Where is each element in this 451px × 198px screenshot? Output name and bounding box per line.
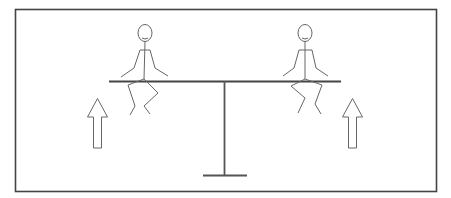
- diagram-frame: [16, 10, 437, 192]
- stick-figure-left: [121, 25, 168, 116]
- up-arrow-icon: [343, 99, 363, 149]
- stick-figure-right: [283, 25, 328, 115]
- seesaw-diagram: [0, 0, 451, 198]
- up-arrow-icon: [88, 99, 108, 149]
